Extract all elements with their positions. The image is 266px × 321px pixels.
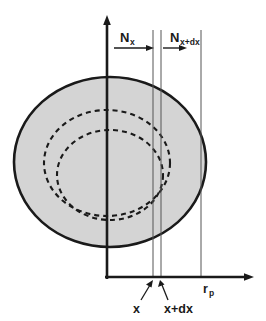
pos-x-dx-pointer-shaft (162, 285, 168, 300)
flux-in-label-base: N (120, 30, 129, 45)
pos-x-label: x (133, 302, 140, 316)
pos-x-dx-label: x+dx (164, 302, 193, 316)
pos-x-pointer-shaft (141, 285, 150, 300)
horizontal-axis-arrowhead (244, 273, 254, 281)
pos-rp-label-subscript: p (209, 288, 214, 298)
flux-out-label-subscript: x+dx (180, 37, 200, 47)
pos-rp-label-base: r (203, 282, 208, 296)
vertical-axis-arrowhead (103, 15, 111, 25)
flux-in-label-subscript: x (130, 37, 135, 47)
pos-x-pointer-arrowhead (146, 280, 153, 288)
pellet-boundary (14, 77, 206, 247)
pellet-flux-diagram: N x N x+dx x x+dx r p (0, 0, 266, 321)
diagram-root: N x N x+dx x x+dx r p (0, 0, 266, 321)
pos-x-dx-pointer-arrowhead (158, 280, 165, 287)
flux-out-label-base: N (170, 30, 179, 45)
